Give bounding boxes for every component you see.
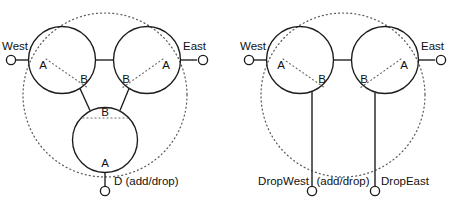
port-label-west-right: West (240, 40, 267, 52)
port-label-dropwest: DropWest (258, 175, 310, 187)
node-label-b-west: B (80, 73, 88, 85)
port-terminal-dropwest[interactable] (307, 186, 316, 195)
port-label-dropeast: DropEast (381, 175, 430, 187)
dotted-ring-path (23, 13, 187, 177)
node-label-a-east-right: A (400, 59, 408, 71)
port-label-east: East (183, 40, 207, 52)
port-terminal-west-right[interactable] (244, 55, 253, 64)
node-label-b-west-right: B (318, 73, 326, 85)
link-west-drop (80, 89, 90, 111)
port-terminal-east[interactable] (198, 55, 207, 64)
node-label-a-west-right: A (277, 59, 285, 71)
three-node-ring-diagram: A B A B B A West East D (add/drop) (2, 13, 208, 196)
node-label-b-east: B (122, 73, 130, 85)
two-node-ring-diagram: A B A B West East DropWest (add/drop) Dr… (240, 13, 446, 196)
port-label-west: West (2, 40, 29, 52)
adddrop-note-label: (add/drop) (316, 175, 369, 187)
port-terminal-west[interactable] (6, 55, 15, 64)
port-terminal-dropeast[interactable] (370, 186, 379, 195)
node-label-b-east-right: B (360, 73, 368, 85)
figure-root: A B A B B A West East D (add/drop) (0, 0, 458, 199)
dotted-ring-path-right (261, 13, 425, 177)
node-label-a-east: A (162, 59, 170, 71)
link-east-drop (120, 89, 129, 111)
port-label-drop: D (add/drop) (114, 175, 179, 187)
diagram-canvas: A B A B B A West East D (add/drop) (0, 0, 458, 199)
node-label-b-drop: B (101, 106, 109, 118)
port-terminal-drop[interactable] (100, 186, 109, 195)
port-terminal-east-right[interactable] (436, 55, 445, 64)
port-label-east-right: East (421, 40, 445, 52)
node-label-a-drop: A (101, 157, 109, 169)
node-label-a-west: A (39, 59, 47, 71)
